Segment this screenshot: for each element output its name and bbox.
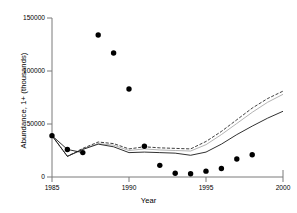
plot-canvas: [0, 0, 297, 213]
data-point: [250, 152, 255, 157]
x-tick-label-1990: 1990: [109, 184, 149, 191]
x-tick-label-1985: 1985: [32, 184, 72, 191]
model-line-dashed: [52, 91, 283, 156]
data-point: [126, 86, 131, 91]
model-lines: [52, 91, 283, 156]
x-axis-title: Year: [0, 196, 297, 205]
observed-points: [49, 32, 255, 176]
x-tick-marks: [52, 177, 283, 182]
data-point: [188, 171, 193, 176]
data-point: [111, 50, 116, 55]
data-point: [49, 133, 54, 138]
model-line-solid: [52, 111, 283, 156]
y-tick-marks: [47, 18, 52, 177]
data-point: [203, 168, 208, 173]
abundance-chart-figure: 150000 100000 50000 0 1985 1990 1995 200…: [0, 0, 297, 213]
data-point: [234, 156, 239, 161]
data-point: [96, 32, 101, 37]
data-point: [65, 147, 70, 152]
model-line-grey: [52, 94, 283, 156]
y-tick-label-150000: 150000: [0, 14, 45, 21]
y-axis-title: Abundance, 1+ (thousands): [19, 26, 28, 176]
x-tick-label-1995: 1995: [186, 184, 226, 191]
data-point: [157, 163, 162, 168]
data-point: [80, 150, 85, 155]
data-point: [173, 171, 178, 176]
data-point: [219, 166, 224, 171]
data-point: [142, 144, 147, 149]
x-tick-label-2000: 2000: [263, 184, 297, 191]
